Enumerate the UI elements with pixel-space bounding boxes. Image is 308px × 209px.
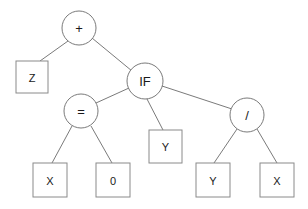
- edge-divide-to-x2: [257, 129, 277, 163]
- edge-plus-to-z: [40, 41, 68, 61]
- node-label-x2: X: [273, 175, 281, 187]
- node-label-zero: 0: [110, 175, 116, 187]
- edge-divide-to-y2: [214, 129, 237, 163]
- edge-if-to-ymid: [147, 99, 163, 130]
- tree-svg-canvas: +ZIF=Y/X0YX: [0, 0, 308, 209]
- expression-tree-diagram: +ZIF=Y/X0YX: [0, 0, 308, 209]
- node-label-y2: Y: [209, 175, 217, 187]
- node-label-x1: X: [46, 175, 54, 187]
- node-if[interactable]: IF: [127, 63, 163, 99]
- node-divide[interactable]: /: [230, 98, 264, 132]
- node-zero[interactable]: 0: [96, 163, 130, 197]
- node-label-equals: =: [77, 104, 85, 119]
- node-label-z: Z: [29, 72, 36, 84]
- node-plus[interactable]: +: [62, 11, 96, 45]
- nodes-group: +ZIF=Y/X0YX: [16, 11, 294, 197]
- node-equals[interactable]: =: [64, 94, 98, 128]
- node-y2[interactable]: Y: [196, 163, 230, 197]
- edge-if-to-equals: [96, 88, 129, 103]
- node-label-if: IF: [139, 74, 151, 89]
- edge-if-to-divide: [162, 86, 232, 109]
- node-x2[interactable]: X: [260, 163, 294, 197]
- node-x1[interactable]: X: [33, 163, 67, 197]
- node-label-ymid: Y: [162, 141, 170, 153]
- node-z[interactable]: Z: [16, 61, 48, 93]
- edge-equals-to-x1: [52, 126, 72, 163]
- edge-equals-to-zero: [91, 126, 112, 163]
- node-label-divide: /: [245, 108, 249, 123]
- edge-plus-to-if: [92, 38, 132, 71]
- node-label-plus: +: [75, 21, 83, 36]
- node-ymid[interactable]: Y: [149, 130, 182, 163]
